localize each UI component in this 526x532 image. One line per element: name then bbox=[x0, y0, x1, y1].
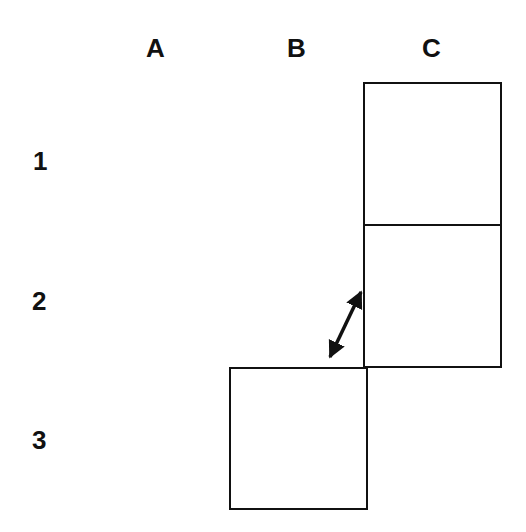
grid-diagram: A B C 1 2 3 bbox=[0, 0, 526, 532]
diagram-shapes bbox=[0, 0, 526, 532]
double-arrow-icon bbox=[330, 292, 361, 357]
cell-c2 bbox=[364, 225, 501, 367]
cell-b3 bbox=[230, 368, 367, 509]
cell-c1 bbox=[364, 83, 501, 225]
